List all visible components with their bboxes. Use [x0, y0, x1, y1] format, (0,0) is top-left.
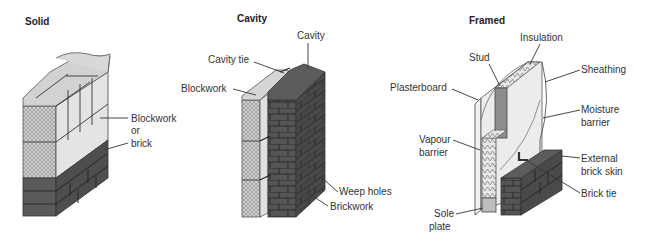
cavity-label: Cavity: [297, 30, 325, 41]
cavity-tie-label: Cavity tie: [208, 54, 250, 65]
moisture-barrier-label-2: barrier: [581, 117, 611, 128]
solid-or-label: or: [131, 125, 141, 136]
cavity-blockwork-label: Blockwork: [181, 83, 228, 94]
external-brick-skin-label-1: External: [581, 153, 618, 164]
sole-plate: [482, 198, 496, 212]
weep-holes-label: Weep holes: [339, 186, 392, 197]
cavity-brick-end: [268, 100, 296, 217]
cavity-title: Cavity: [237, 13, 267, 24]
solid-title: Solid: [25, 16, 49, 27]
brick-tie-label: Brick tie: [581, 188, 617, 199]
brickwork-label: Brickwork: [330, 201, 374, 212]
cavity-blockwork-end: [242, 100, 260, 217]
stud-label: Stud: [469, 52, 490, 63]
insulation-batt: [482, 138, 496, 198]
external-brick-front: [501, 178, 521, 215]
sole-plate-label-1: Sole: [434, 208, 454, 219]
solid-brick-label: brick: [131, 138, 153, 149]
vapour-barrier-label-1: Vapour: [419, 134, 451, 145]
wall-types-diagram: Solid Blockwork or brick Cavity: [0, 0, 646, 242]
external-brick-skin-label-2: brick skin: [581, 166, 623, 177]
solid-blockwork-label: Blockwork: [131, 113, 178, 124]
framed-panel: Framed Insulation Stud Sheathing Plaster…: [390, 15, 626, 232]
vapour-barrier-label-2: barrier: [419, 147, 449, 158]
sole-plate-label-2: plate: [429, 221, 451, 232]
solid-panel: Solid Blockwork or brick: [23, 16, 178, 216]
moisture-barrier-label-1: Moisture: [581, 104, 620, 115]
sheathing-label: Sheathing: [581, 64, 626, 75]
plasterboard-label: Plasterboard: [390, 82, 447, 93]
insulation-label: Insulation: [520, 32, 563, 43]
plasterboard-sheet: [475, 98, 481, 215]
cavity-panel: Cavity Cavity Cavity tie Blockwork Weep …: [181, 13, 392, 217]
framed-title: Framed: [469, 15, 505, 26]
